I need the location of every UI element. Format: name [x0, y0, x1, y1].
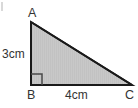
side-length-label-bc: 4cm	[65, 89, 88, 101]
vertex-label-a: A	[28, 7, 36, 19]
geometry-figure: A B C 3cm 4cm	[0, 0, 138, 108]
vertex-label-c: C	[125, 89, 134, 101]
side-length-label-ab: 3cm	[2, 48, 25, 60]
vertex-label-b: B	[27, 89, 35, 101]
